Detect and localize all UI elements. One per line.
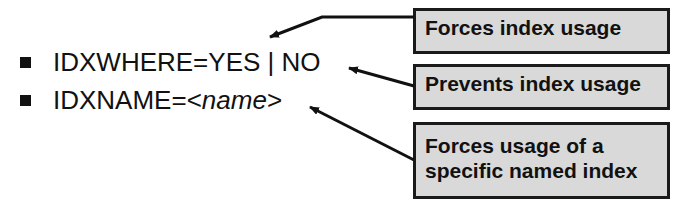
arrow-named-index [310,107,414,160]
callout-arrows [0,0,693,204]
arrow-forces-index [270,17,414,37]
arrow-prevents-index [349,68,414,86]
